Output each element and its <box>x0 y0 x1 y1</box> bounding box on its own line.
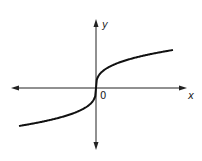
cube-root-plot: y 0 x <box>0 0 202 161</box>
y-axis-label: y <box>101 19 109 30</box>
y-axis-down-arrow-icon <box>94 142 99 150</box>
x-axis-label: x <box>187 90 194 101</box>
x-axis-right-arrow-icon <box>179 86 187 91</box>
y-axis-up-arrow-icon <box>94 19 99 27</box>
origin-label: 0 <box>100 90 106 101</box>
x-axis-left-arrow-icon <box>11 86 19 91</box>
